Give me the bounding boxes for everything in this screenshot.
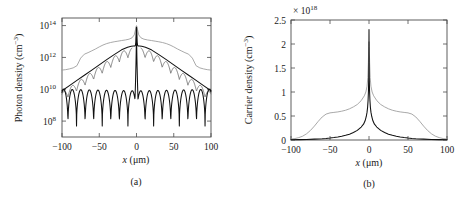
- panel-a-curves: [62, 26, 211, 126]
- panel-a-ytick-1: 1010: [40, 83, 57, 95]
- panel-b-xtick-4: 100: [440, 145, 455, 155]
- panel-a-svg: 108101010121014 −100−50050100 Photon den…: [0, 0, 236, 197]
- panel-a-xtick-4: 100: [204, 142, 219, 152]
- panel-b-xtick-2: 0: [367, 145, 372, 155]
- panel-a-ytick-labels: 108101010121014: [40, 19, 57, 126]
- panel-b-curves: [291, 30, 447, 140]
- panel-a-ytick-0: 108: [43, 115, 57, 127]
- panel-a-ylabel: Photon density (cm−3): [12, 34, 25, 123]
- panel-b-ytick-5: 2.5: [274, 16, 286, 26]
- panel-b-xlabel: x (μm): [355, 157, 383, 169]
- panel-b-ylabel: Carrier density (cm−3): [242, 36, 255, 125]
- panel-b-xtick-3: 50: [403, 145, 413, 155]
- panel-b-svg: 00.511.522.5 −100−50050100 × 1018 Carrie…: [236, 0, 472, 197]
- panel-b-xtick-0: −100: [281, 145, 301, 155]
- panel-a-ytick-2: 1012: [40, 51, 57, 63]
- panel-a-xtick-3: 50: [169, 142, 179, 152]
- panel-a-xtick-labels: −100−50050100: [52, 142, 218, 152]
- panel-b-caption: (b): [363, 178, 375, 190]
- panel-b-plot-area: [291, 20, 447, 140]
- panel-b: 00.511.522.5 −100−50050100 × 1018 Carrie…: [236, 0, 472, 197]
- panel-b-ytick-1: 0.5: [274, 112, 286, 122]
- panel-b-ytick-0: 0: [281, 136, 286, 146]
- panel-b-ytick-labels: 00.511.522.5: [274, 16, 286, 146]
- panel-a-xtick-1: −50: [92, 142, 107, 152]
- panel-a-plot-area: [62, 18, 211, 137]
- panel-b-xtick-labels: −100−50050100: [281, 145, 454, 155]
- panel-a-xlabel: x (μm): [122, 154, 150, 166]
- panel-a-ytick-3: 1014: [40, 19, 57, 31]
- panel-a-caption: (a): [130, 176, 141, 188]
- panel-b-ytick-3: 1.5: [274, 64, 286, 74]
- panel-b-exponent-label: × 1018: [293, 4, 318, 16]
- panel-b-ytick-4: 2: [281, 40, 286, 50]
- panel-a-xtick-2: 0: [134, 142, 139, 152]
- panel-a-curve-oscillating-black: [62, 37, 211, 126]
- panel-a-xtick-0: −100: [52, 142, 72, 152]
- panel-b-curve-dark-peak: [291, 30, 447, 140]
- panel-b-ytick-2: 1: [281, 88, 286, 98]
- panel-a: 108101010121014 −100−50050100 Photon den…: [0, 0, 236, 197]
- figure-container: 108101010121014 −100−50050100 Photon den…: [0, 0, 472, 197]
- panel-b-xtick-1: −50: [323, 145, 338, 155]
